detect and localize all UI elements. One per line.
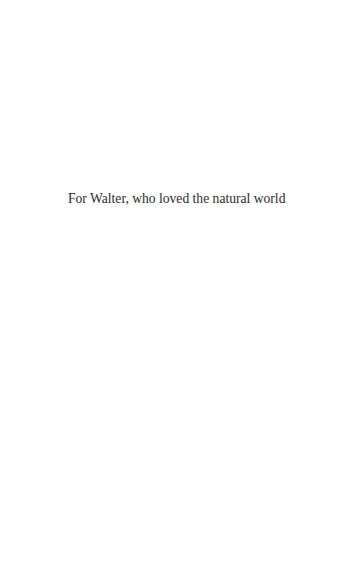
dedication-text: For Walter, who loved the natural world bbox=[68, 190, 288, 208]
book-page: For Walter, who loved the natural world bbox=[0, 0, 359, 580]
